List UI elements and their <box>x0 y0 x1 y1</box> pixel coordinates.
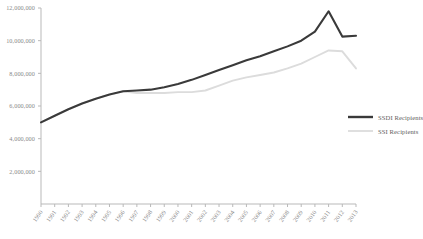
y-tick-label: 10,000,000 <box>6 37 35 44</box>
x-tick-label: 2005 <box>236 209 249 223</box>
x-tick-label: 2001 <box>181 209 194 223</box>
x-tick-label: 2009 <box>291 209 304 223</box>
x-tick-label: 1993 <box>72 209 85 223</box>
legend-label-ssdi: SSDI Recipients <box>378 114 423 121</box>
x-tick-label: 2010 <box>305 209 318 223</box>
y-tick-group: 2,000,0004,000,0006,000,0008,000,00010,0… <box>6 4 41 174</box>
legend-label-ssi: SSI Recipients <box>378 128 419 135</box>
x-tick-label: 1996 <box>113 209 126 223</box>
x-tick-label: 2000 <box>168 209 181 223</box>
x-tick-label: 2013 <box>346 209 359 223</box>
y-tick-label: 8,000,000 <box>9 70 35 77</box>
x-tick-label: 1995 <box>99 209 112 223</box>
x-tick-label: 1990 <box>31 209 44 223</box>
x-axis: 1990199119921993199419951996199719981999… <box>31 204 359 223</box>
x-tick-label: 2008 <box>277 209 290 223</box>
series-line-ssi-recipients <box>41 50 356 122</box>
y-tick-label: 4,000,000 <box>9 135 35 142</box>
x-tick-label: 2011 <box>318 209 331 223</box>
x-tick-label: 2003 <box>209 209 222 223</box>
series-group <box>41 11 356 122</box>
x-tick-label: 1997 <box>127 209 140 223</box>
x-tick-label: 2002 <box>195 209 208 223</box>
x-tick-label: 2004 <box>222 209 235 223</box>
x-tick-label: 1998 <box>140 209 153 223</box>
y-axis: 2,000,0004,000,0006,000,0008,000,00010,0… <box>6 4 41 204</box>
x-tick-label: 2007 <box>264 209 277 223</box>
y-tick-label: 12,000,000 <box>6 4 35 11</box>
x-tick-label: 1994 <box>86 209 99 223</box>
x-tick-label: 2006 <box>250 209 263 223</box>
y-tick-label: 2,000,000 <box>9 168 35 175</box>
legend: SSDI Recipients SSI Recipients <box>348 114 423 135</box>
chart-container: 2,000,0004,000,0006,000,0008,000,00010,0… <box>0 0 423 239</box>
series-line-ssdi-recipients <box>41 11 356 122</box>
y-tick-label: 6,000,000 <box>9 102 35 109</box>
x-tick-label: 1999 <box>154 209 167 223</box>
x-tick-group: 1990199119921993199419951996199719981999… <box>31 204 359 223</box>
line-chart: 2,000,0004,000,0006,000,0008,000,00010,0… <box>0 0 423 239</box>
x-tick-label: 1991 <box>44 209 57 223</box>
x-tick-label: 1992 <box>58 209 71 223</box>
x-tick-label: 2012 <box>332 209 345 223</box>
